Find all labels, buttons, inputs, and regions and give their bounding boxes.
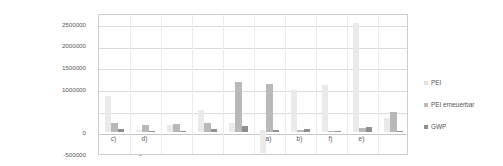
- x-axis-label: b): [284, 135, 315, 143]
- legend-swatch-pei-icon: [424, 81, 428, 85]
- x-axis-labels: c)d)a)b)f)e): [98, 0, 408, 166]
- x-axis-label: e): [346, 135, 377, 143]
- y-tick-label: 1500000: [62, 65, 86, 71]
- x-axis-label: a): [253, 135, 284, 143]
- legend-label-pei: PEI: [431, 79, 441, 86]
- legend-item-gwp: GWP: [424, 122, 500, 131]
- legend-swatch-gwp-icon: [424, 125, 428, 129]
- x-axis-label: f): [315, 135, 346, 143]
- legend-label-gwp: GWP: [431, 123, 446, 130]
- x-axis-label: c): [98, 135, 129, 143]
- y-tick-label: 1000000: [62, 87, 86, 93]
- y-tick-label: -500000: [63, 152, 86, 158]
- y-tick-label: 2000000: [62, 43, 86, 49]
- legend-item-pei: PEI: [424, 78, 500, 87]
- x-axis-label: d): [129, 135, 160, 143]
- chart-legend: PEI PEI erneuerbar GWP: [424, 78, 500, 144]
- y-tick-label: 0: [83, 130, 86, 136]
- chart-figure: Primärenergie [MJ] [kg CO2-Äqu.] 2500000…: [0, 0, 503, 166]
- legend-item-pei-erneuerbar: PEI erneuerbar: [424, 100, 500, 109]
- y-tick-label: 2500000: [62, 22, 86, 28]
- y-axis-ticks: 25000002000000150000010000000-500000: [44, 0, 96, 166]
- legend-label-pei-erneuerbar: PEI erneuerbar: [431, 101, 474, 108]
- y-axis-title: Primärenergie [MJ] [kg CO2-Äqu.]: [24, 0, 38, 28]
- legend-swatch-pei-erneuerbar-icon: [424, 103, 428, 107]
